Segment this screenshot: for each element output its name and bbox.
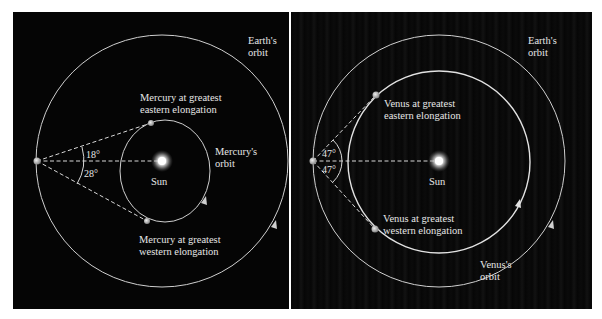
mercury-east-label: Mercury at greatest (140, 92, 222, 103)
mercury-west-icon (144, 218, 150, 224)
mercury-east-label-2: eastern elongation (140, 104, 217, 115)
earth-orbit-label-right: Earth's (528, 35, 557, 46)
mercury-west-label: Mercury at greatest (139, 234, 221, 245)
angle-arc-left (77, 147, 84, 184)
sun-right-icon (435, 157, 443, 165)
mercury-east-icon (148, 120, 154, 126)
earth-orbit-label-left: Earth's (248, 35, 277, 46)
earth-orbit-arrow-icon-right (548, 220, 554, 229)
venus-west-label: Venus at greatest (383, 213, 454, 224)
earth-right-icon (310, 158, 317, 165)
venus-orbit-arrow-icon (515, 199, 521, 208)
venus-east-label: Venus at greatest (384, 98, 455, 109)
angle-east-label-venus: 47° (322, 148, 336, 159)
earth-orbit-label-right-2: orbit (528, 47, 548, 58)
elongation-diagram: 18° 28° Sun Earth's orbit Mercury at gre… (0, 0, 602, 319)
angle-west-label-venus: 47° (322, 164, 336, 175)
venus-east-icon (373, 92, 380, 99)
venus-west-icon (372, 226, 379, 233)
venus-orbit-label-2: orbit (480, 271, 500, 282)
angle-west-label: 28° (84, 168, 98, 179)
earth-orbit-label-left-2: orbit (248, 47, 268, 58)
sun-label-left: Sun (151, 176, 168, 187)
angle-east-label: 18° (86, 149, 100, 160)
mercury-west-label-2: western elongation (139, 246, 219, 257)
venus-diagram: 47° 47° Sun Earth's orbit Venus at great… (310, 35, 566, 287)
sun-left-icon (158, 157, 166, 165)
mercury-orbit-label: Mercury's (215, 146, 257, 157)
earth-left-icon (34, 158, 41, 165)
venus-east-label-2: eastern elongation (384, 110, 461, 121)
sun-label-right: Sun (429, 176, 446, 187)
mercury-orbit-label-2: orbit (215, 158, 235, 169)
mercury-diagram: 18° 28° Sun Earth's orbit Mercury at gre… (34, 35, 289, 287)
venus-orbit-label: Venus's (480, 259, 512, 270)
venus-west-label-2: western elongation (383, 225, 463, 236)
earth-orbit-arrow-icon (271, 220, 277, 229)
